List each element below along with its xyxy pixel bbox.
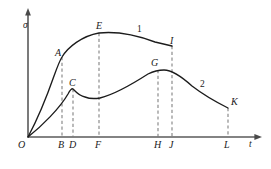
curve-number-2: 2 xyxy=(200,80,205,90)
curve-number-1: 1 xyxy=(137,25,142,35)
tick-label-d: D xyxy=(69,140,76,150)
tick-label-j: J xyxy=(169,140,173,150)
point-label-g: G xyxy=(151,58,158,68)
tick-label-l: L xyxy=(224,140,230,150)
curve-1-path xyxy=(28,33,172,137)
point-label-k: K xyxy=(231,97,238,107)
x-axis-arrowhead xyxy=(254,134,262,140)
point-label-i: I xyxy=(170,36,173,46)
y-axis-arrowhead xyxy=(25,8,31,16)
stress-time-figure: σ t O B D F H J L A C E G I K 1 2 xyxy=(0,0,271,169)
point-label-a: A xyxy=(55,48,61,58)
figure-canvas xyxy=(0,0,271,169)
curve-2-path xyxy=(28,70,228,137)
tick-label-b: B xyxy=(58,140,64,150)
x-axis-label: t xyxy=(249,140,252,150)
point-label-e: E xyxy=(96,21,102,31)
origin-label: O xyxy=(18,140,25,150)
point-label-c: C xyxy=(69,78,76,88)
tick-label-f: F xyxy=(95,140,101,150)
y-axis-label: σ xyxy=(23,21,28,31)
tick-label-h: H xyxy=(154,140,161,150)
